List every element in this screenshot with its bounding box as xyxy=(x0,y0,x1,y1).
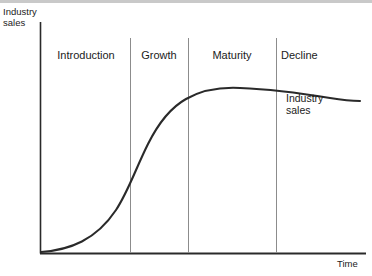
product-life-cycle-figure: Industrysales Time Introduction Growth M… xyxy=(0,0,372,276)
curve-annotation-line2: sales xyxy=(286,104,311,116)
curve-annotation-industry-sales: Industrysales xyxy=(286,93,323,116)
stage-label-decline: Decline xyxy=(281,50,341,61)
stage-label-growth: Growth xyxy=(131,50,187,61)
stage-label-maturity: Maturity xyxy=(189,50,275,61)
y-axis-title: Industrysales xyxy=(3,6,37,28)
life-cycle-chart-graphic xyxy=(0,0,372,276)
y-axis-title-line2: sales xyxy=(3,17,25,28)
stage-label-introduction: Introduction xyxy=(45,50,127,61)
curve-annotation-line1: Industry xyxy=(286,92,323,104)
x-axis-title: Time xyxy=(337,258,358,269)
y-axis-title-line1: Industry xyxy=(3,6,37,17)
